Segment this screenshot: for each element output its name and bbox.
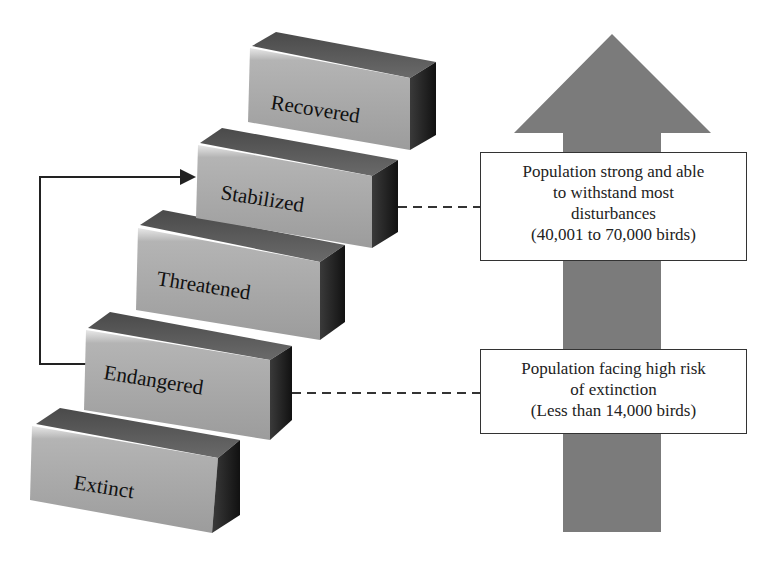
callout-line: disturbances — [487, 203, 740, 224]
callout-line: of extinction — [487, 379, 740, 400]
upward-arrow-icon — [514, 34, 711, 532]
endangered-callout-box: Population facing high risk of extinctio… — [480, 349, 747, 434]
callout-line: (Less than 14,000 birds) — [487, 400, 740, 421]
callout-line: Population facing high risk — [487, 358, 740, 379]
stabilized-callout-box: Population strong and able to withstand … — [480, 152, 747, 261]
staircase-diagram: Recovered Stabilized Threatened Endanger… — [0, 0, 775, 561]
callout-line: (40,001 to 70,000 birds) — [487, 224, 740, 245]
callout-line: to withstand most — [487, 182, 740, 203]
callout-line: Population strong and able — [487, 161, 740, 182]
